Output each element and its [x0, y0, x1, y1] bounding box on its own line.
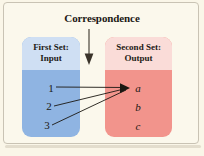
input-set-title: First Set: Input	[22, 42, 80, 63]
figure-frame-shadow	[5, 145, 201, 148]
output-element-a: a	[131, 82, 145, 94]
output-element-b: b	[131, 101, 145, 113]
down-arrow-icon	[78, 28, 100, 66]
input-set-title-line2: Input	[22, 53, 80, 64]
output-set-title: Second Set: Output	[105, 42, 172, 63]
output-element-c: c	[131, 120, 145, 132]
output-set-title-line1: Second Set:	[116, 42, 161, 52]
page-title: Correspondence	[0, 12, 204, 24]
input-element-3: 3	[40, 119, 54, 131]
figure-canvas: Correspondence First Set: Input 1 2 3 Se…	[0, 0, 204, 156]
input-element-2: 2	[42, 100, 56, 112]
input-element-1: 1	[44, 82, 58, 94]
output-set-title-line2: Output	[105, 53, 172, 64]
input-set-title-line1: First Set:	[33, 42, 69, 52]
